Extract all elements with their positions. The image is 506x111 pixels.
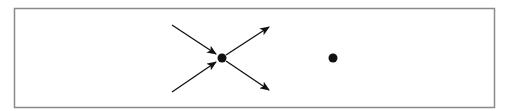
arrow-incoming-lower-left	[172, 62, 216, 92]
arrow-outgoing-lower-right	[226, 61, 269, 90]
node-group	[218, 54, 338, 63]
center-node	[218, 54, 227, 63]
diagram-canvas	[0, 0, 506, 111]
diagram-frame	[15, 9, 495, 108]
arrow-incoming-upper-left	[172, 25, 216, 54]
isolated-node	[329, 54, 338, 63]
arrow-outgoing-upper-right	[226, 27, 269, 55]
